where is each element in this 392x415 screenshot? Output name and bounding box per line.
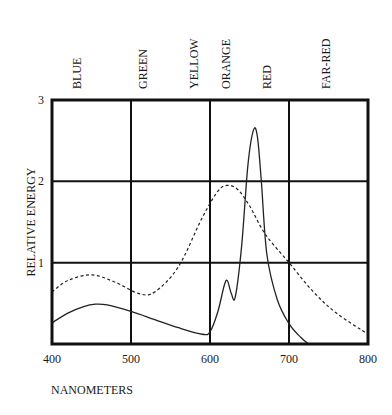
- y-tick-label: 1: [38, 256, 44, 270]
- chart-grid: [52, 100, 368, 344]
- band-label-orange: ORANGE: [219, 39, 233, 89]
- band-label-blue: BLUE: [70, 58, 84, 89]
- band-label-green: GREEN: [136, 49, 150, 89]
- band-label-far-red: FAR-RED: [319, 38, 333, 89]
- color-band-labels: BLUEGREENYELLOWORANGEREDFAR-RED: [70, 38, 333, 89]
- y-axis-label: RELATIVE ENERGY: [24, 167, 38, 276]
- y-tick-labels: 123: [38, 93, 44, 270]
- x-axis-label: NANOMETERS: [51, 383, 133, 397]
- solid-curve: [52, 128, 309, 344]
- x-tick-label: 700: [280, 352, 298, 366]
- x-tick-label: 800: [359, 352, 377, 366]
- x-tick-labels: 400500600700800: [43, 352, 377, 366]
- y-tick-label: 2: [38, 174, 44, 188]
- band-label-red: RED: [260, 65, 274, 89]
- band-label-yellow: YELLOW: [187, 38, 201, 89]
- y-tick-label: 3: [38, 93, 44, 107]
- spectrum-chart: BLUEGREENYELLOWORANGEREDFAR-RED 40050060…: [0, 0, 392, 415]
- x-tick-label: 500: [122, 352, 140, 366]
- x-tick-label: 600: [201, 352, 219, 366]
- x-tick-label: 400: [43, 352, 61, 366]
